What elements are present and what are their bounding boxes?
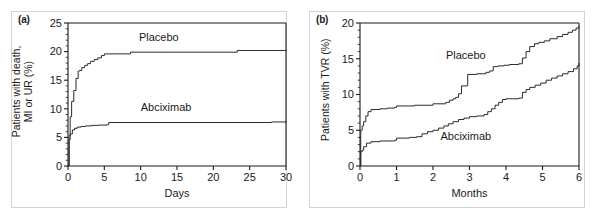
svg-text:4: 4 [503, 171, 509, 183]
svg-text:25: 25 [244, 171, 256, 183]
panel-b: (b) Patients with TVR (%) 05101520012345… [298, 0, 596, 219]
svg-text:25: 25 [50, 17, 62, 29]
panel-a-plot: 0510152025051015202530DaysPlaceboAbcixim… [0, 0, 298, 219]
svg-text:3: 3 [466, 171, 472, 183]
svg-text:Abciximab: Abciximab [141, 101, 192, 113]
svg-text:0: 0 [65, 171, 71, 183]
svg-text:15: 15 [342, 53, 354, 65]
svg-text:5: 5 [56, 131, 62, 143]
svg-text:5: 5 [539, 171, 545, 183]
svg-text:0: 0 [357, 171, 363, 183]
svg-text:Days: Days [164, 187, 190, 199]
svg-text:15: 15 [50, 74, 62, 86]
panel-b-plot: 051015200123456MonthsPlaceboAbciximab [298, 0, 596, 219]
svg-text:30: 30 [280, 171, 292, 183]
svg-text:10: 10 [342, 88, 354, 100]
svg-text:6: 6 [576, 171, 582, 183]
svg-text:Placebo: Placebo [446, 49, 486, 61]
svg-text:10: 10 [135, 171, 147, 183]
figure-container: (a) Patients with death, MI or UR (%) 05… [0, 0, 597, 219]
svg-text:20: 20 [342, 17, 354, 29]
svg-text:0: 0 [56, 160, 62, 172]
svg-text:Placebo: Placebo [139, 31, 179, 43]
svg-text:Abciximab: Abciximab [440, 130, 491, 142]
svg-text:20: 20 [50, 45, 62, 57]
svg-text:20: 20 [207, 171, 219, 183]
svg-text:1: 1 [393, 171, 399, 183]
svg-text:15: 15 [171, 171, 183, 183]
svg-text:5: 5 [101, 171, 107, 183]
svg-text:5: 5 [348, 124, 354, 136]
svg-text:2: 2 [430, 171, 436, 183]
svg-text:Months: Months [451, 187, 488, 199]
svg-text:0: 0 [348, 160, 354, 172]
panel-a: (a) Patients with death, MI or UR (%) 05… [0, 0, 298, 219]
svg-text:10: 10 [50, 103, 62, 115]
